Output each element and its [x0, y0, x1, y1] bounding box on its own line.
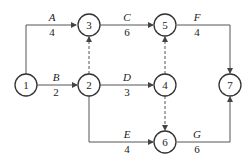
- edge-G: [177, 97, 230, 142]
- edge-F: [177, 25, 230, 73]
- edge-E: [89, 96, 153, 142]
- label-B-name: B: [53, 71, 60, 83]
- svg-text:4: 4: [162, 79, 168, 91]
- network-diagram: A 4 B 2 C 6 D 3 E 4 F 4 G 6 1 2 3 4 5 6 …: [0, 0, 249, 165]
- node-2: 2: [78, 74, 100, 96]
- label-C-duration: 6: [124, 26, 130, 38]
- svg-text:5: 5: [162, 19, 168, 31]
- svg-text:1: 1: [23, 79, 29, 91]
- label-E-name: E: [123, 128, 131, 140]
- node-1: 1: [15, 74, 37, 96]
- label-F-name: F: [193, 11, 201, 23]
- label-F-duration: 4: [194, 26, 200, 38]
- node-7: 7: [219, 74, 241, 96]
- node-4: 4: [154, 74, 176, 96]
- svg-text:7: 7: [227, 79, 233, 91]
- node-5: 5: [154, 14, 176, 36]
- node-3: 3: [78, 14, 100, 36]
- svg-text:3: 3: [86, 19, 92, 31]
- svg-text:2: 2: [86, 79, 92, 91]
- label-G-name: G: [193, 128, 201, 140]
- label-D-name: D: [122, 71, 131, 83]
- label-A-name: A: [48, 11, 56, 23]
- label-D-duration: 3: [124, 86, 130, 98]
- label-C-name: C: [123, 11, 131, 23]
- label-A-duration: 4: [49, 26, 55, 38]
- label-B-duration: 2: [53, 86, 59, 98]
- label-G-duration: 6: [194, 143, 200, 155]
- label-E-duration: 4: [124, 143, 130, 155]
- node-6: 6: [154, 131, 176, 153]
- svg-text:6: 6: [162, 136, 168, 148]
